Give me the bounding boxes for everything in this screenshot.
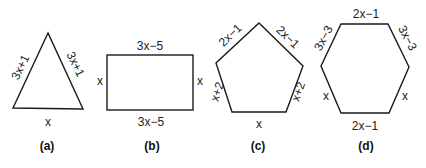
figure-c-pentagon: 2x−1 2x−1 x+2 x+2 x (c) — [207, 21, 308, 153]
rectangle-shape — [107, 55, 193, 110]
hexagon-upper-right-label: 3x−3 — [395, 23, 420, 53]
hexagon-bottom-label: 2x−1 — [352, 119, 379, 133]
polygons-diagram: 3x+1 3x+1 x (a) 3x−5 3x−5 x x (b) 2x−1 2… — [0, 0, 426, 168]
pentagon-bottom-label: x — [256, 117, 262, 131]
rectangle-top-label: 3x−5 — [137, 39, 164, 53]
figure-b-caption: (b) — [144, 139, 159, 153]
pentagon-lower-right-label: x+2 — [288, 80, 308, 104]
rectangle-right-label: x — [197, 74, 203, 88]
figure-a-triangle: 3x+1 3x+1 x (a) — [8, 33, 87, 153]
pentagon-lower-left-label: x+2 — [207, 80, 226, 103]
hexagon-upper-left-label: 3x−3 — [311, 23, 336, 53]
rectangle-left-label: x — [97, 74, 103, 88]
figure-c-caption: (c) — [251, 139, 266, 153]
pentagon-top-left-label: 2x−1 — [216, 21, 245, 50]
triangle-base-label: x — [45, 115, 51, 129]
triangle-left-side-label: 3x+1 — [8, 52, 32, 82]
figure-d-caption: (d) — [358, 139, 373, 153]
pentagon-top-right-label: 2x−1 — [273, 23, 302, 52]
hexagon-shape — [321, 24, 409, 113]
figure-a-caption: (a) — [40, 139, 55, 153]
figure-d-hexagon: 2x−1 3x−3 3x−3 x x 2x−1 (d) — [311, 7, 420, 153]
figure-b-rectangle: 3x−5 3x−5 x x (b) — [97, 39, 203, 153]
hexagon-lower-left-label: x — [323, 89, 329, 103]
hexagon-top-label: 2x−1 — [353, 7, 380, 21]
hexagon-lower-right-label: x — [402, 89, 408, 103]
rectangle-bottom-label: 3x−5 — [138, 115, 165, 129]
